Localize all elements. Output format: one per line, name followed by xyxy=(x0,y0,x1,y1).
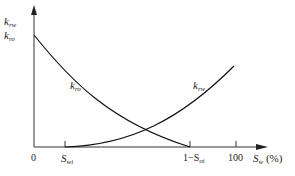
y-label-kro: kro xyxy=(4,30,15,43)
y-axis-arrow-icon xyxy=(31,5,37,15)
tick-label-100: 100 xyxy=(228,153,243,163)
tick-label-0: 0 xyxy=(31,153,36,163)
x-axis-arrow-icon xyxy=(256,144,268,150)
kro-curve xyxy=(34,35,190,147)
y-label-krw: krw xyxy=(4,16,16,29)
curve-label-kro: kro xyxy=(70,80,81,93)
tick-label-1-soi: 1−Soi xyxy=(183,153,205,165)
krw-curve xyxy=(65,66,234,147)
tick-label-swi: Swi xyxy=(61,153,73,166)
curve-label-krw: krw xyxy=(193,80,205,93)
relative-permeability-chart xyxy=(0,0,295,176)
x-axis-label: Sw (%) xyxy=(253,153,282,166)
